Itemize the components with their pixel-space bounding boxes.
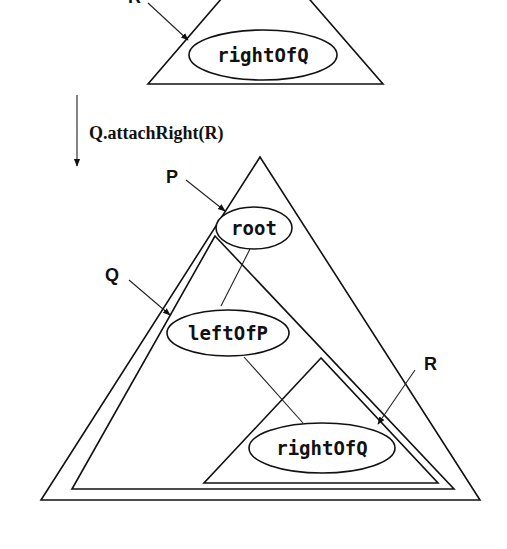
before-tree: rightOfQ R (128, 0, 383, 84)
pointer-arrow-p (186, 180, 225, 211)
pointer-arrow-r-before (148, 3, 188, 40)
operation: Q.attachRight(R) (77, 95, 223, 166)
pointer-arrow-r (378, 370, 415, 424)
after-tree: root leftOfP rightOfQ P Q R (41, 157, 480, 500)
pointer-arrow-q (129, 280, 170, 315)
pointer-label-p: P (166, 167, 178, 187)
pointer-label-r: R (424, 354, 437, 374)
subtree-triangle-r-before (148, 0, 383, 84)
node-label-rightofq: rightOfQ (276, 437, 368, 459)
node-label-rightofq-before: rightOfQ (217, 44, 309, 66)
pointer-label-r-before: R (128, 0, 141, 7)
edge-leftofp-rightofq (244, 357, 303, 423)
tree-attach-right-diagram: rightOfQ R Q.attachRight(R) root leftOfP… (0, 0, 507, 549)
node-label-leftofp: leftOfP (188, 322, 268, 344)
pointer-label-q: Q (105, 265, 119, 285)
operation-label: Q.attachRight(R) (89, 123, 223, 144)
node-label-root: root (231, 217, 277, 239)
